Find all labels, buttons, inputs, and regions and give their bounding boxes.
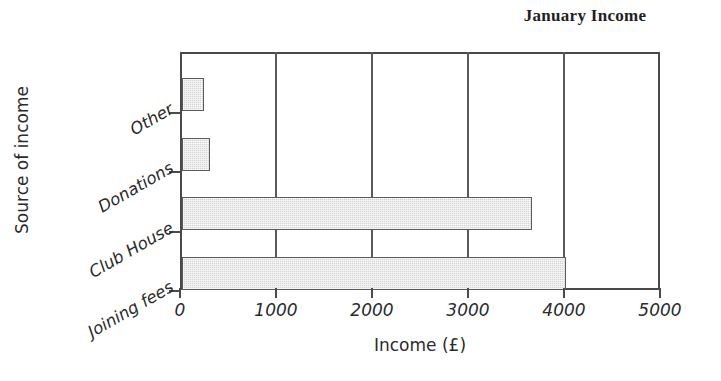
y-axis-title: Source of income	[12, 60, 32, 260]
x-tick-5000	[659, 288, 661, 298]
x-tick-label-2000: 2000	[327, 300, 417, 320]
chart-title: January Income	[470, 6, 700, 26]
x-tick-3000	[467, 288, 469, 298]
bar-donations	[182, 138, 210, 171]
x-tick-label-4000: 4000	[519, 300, 609, 320]
gridline-4000	[563, 52, 565, 290]
axis-frame-top	[180, 52, 660, 54]
gridline-1000	[275, 52, 277, 290]
x-axis-title: Income (£)	[225, 335, 615, 355]
bar-joining-fees	[182, 257, 566, 290]
x-tick-label-5000: 5000	[615, 300, 705, 320]
x-tick-2000	[371, 288, 373, 298]
gridline-2000	[371, 52, 373, 290]
x-tick-4000	[563, 288, 565, 298]
x-tick-1000	[275, 288, 277, 298]
bar-other	[182, 78, 204, 111]
bar-club-house	[182, 197, 532, 230]
gridline-3000	[467, 52, 469, 290]
plot-area	[180, 52, 660, 290]
x-tick-label-3000: 3000	[423, 300, 513, 320]
x-tick-label-1000: 1000	[231, 300, 321, 320]
bar-chart: January Income 010002000300040005000 Oth…	[0, 0, 721, 381]
axis-frame-right	[658, 52, 660, 290]
